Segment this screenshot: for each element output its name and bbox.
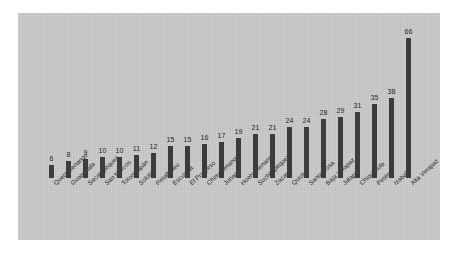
- bar[interactable]: [304, 127, 309, 178]
- bar[interactable]: [321, 119, 326, 178]
- bar[interactable]: [355, 112, 360, 178]
- bar[interactable]: [389, 98, 394, 178]
- bar[interactable]: [151, 153, 156, 178]
- bar-value-label: 24: [293, 117, 320, 125]
- bar[interactable]: [372, 104, 377, 178]
- bar[interactable]: [117, 157, 122, 178]
- bar[interactable]: [134, 155, 139, 178]
- x-axis-label: Alta Verapaz: [409, 157, 439, 186]
- bar-value-label: 66: [395, 28, 422, 36]
- bar[interactable]: [168, 146, 173, 178]
- chart-panel: 6Quetzaltenango8Guatemala9Sacatepéquez10…: [18, 13, 440, 240]
- bar[interactable]: [270, 134, 275, 178]
- bar[interactable]: [100, 157, 105, 178]
- bar[interactable]: [219, 142, 224, 178]
- bar[interactable]: [49, 165, 54, 178]
- bar[interactable]: [253, 134, 258, 178]
- plot-area: 6Quetzaltenango8Guatemala9Sacatepéquez10…: [18, 13, 440, 240]
- bar[interactable]: [202, 144, 207, 178]
- bar[interactable]: [236, 138, 241, 178]
- bar[interactable]: [83, 159, 88, 178]
- bar[interactable]: [66, 161, 71, 178]
- bar-value-label: 38: [378, 88, 405, 96]
- bar[interactable]: [406, 38, 411, 178]
- bar[interactable]: [338, 117, 343, 178]
- bar[interactable]: [185, 146, 190, 178]
- bar[interactable]: [287, 127, 292, 178]
- bar-value-label: 31: [344, 102, 371, 110]
